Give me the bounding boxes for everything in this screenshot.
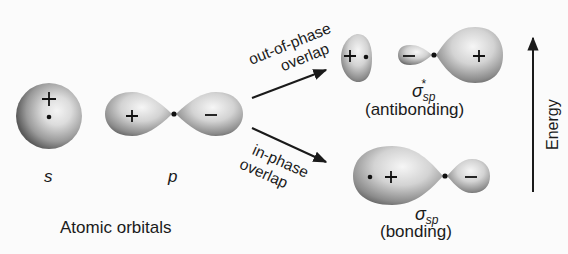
orbital-diagram: s p Atomic orbitals out-of-phase overlap… (0, 0, 568, 254)
atomic-orbitals-caption: Atomic orbitals (60, 219, 171, 236)
p-orbital (105, 92, 243, 136)
bonding-symbol: σsp (415, 205, 439, 223)
s-orbital-label: s (44, 168, 53, 185)
s-orbital (16, 83, 82, 149)
bonding-orbital (353, 146, 490, 205)
antibonding-symbol: σsp* (412, 82, 440, 100)
antibonding-caption: (antibonding) (365, 101, 464, 118)
p-orbital-label: p (168, 168, 177, 185)
energy-label: Energy (545, 99, 561, 150)
sigma-symbol: σ (415, 204, 426, 224)
star-superscript: * (422, 77, 427, 91)
antibonding-orbital (341, 27, 503, 83)
bonding-caption: (bonding) (380, 223, 452, 240)
